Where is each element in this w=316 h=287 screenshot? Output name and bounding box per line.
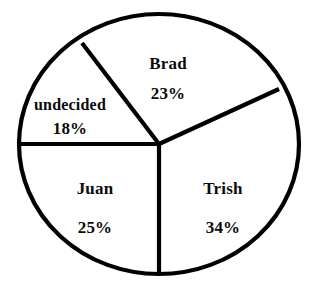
pie-label-undecided: undecided 18% <box>10 97 130 137</box>
pie-label-juan: Juan 25% <box>40 180 150 236</box>
pie-label-juan-name: Juan <box>40 180 150 197</box>
pie-label-brad: Brad 23% <box>112 55 224 102</box>
pie-label-brad-name: Brad <box>112 55 224 72</box>
pie-label-trish-value: 34% <box>168 219 278 236</box>
pie-label-trish: Trish 34% <box>168 180 278 236</box>
pie-chart: Brad 23% undecided 18% Juan 25% Trish 34… <box>0 0 316 287</box>
pie-chart-canvas <box>0 0 316 287</box>
pie-label-juan-value: 25% <box>40 219 150 236</box>
pie-label-undecided-value: 18% <box>10 120 130 137</box>
pie-label-undecided-name: undecided <box>10 97 130 113</box>
pie-label-trish-name: Trish <box>168 180 278 197</box>
